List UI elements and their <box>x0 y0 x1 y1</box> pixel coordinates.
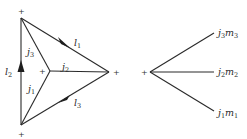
label-l3: l3 <box>74 97 81 110</box>
label-j2m2: j2m2 <box>216 66 238 79</box>
label-l2: l2 <box>5 66 12 79</box>
edge-j2 <box>50 71 109 72</box>
coupling-diagrams: + + + + l1 l2 l3 j3 j2 j1 + j3m3 <box>0 0 247 139</box>
arrow-l1-icon <box>58 37 70 48</box>
sign-right: + <box>113 68 120 77</box>
leg-j1m1 <box>150 72 214 111</box>
label-j3: j3 <box>25 46 34 59</box>
label-j3m3: j3m3 <box>216 27 238 40</box>
label-l1: l1 <box>74 37 81 50</box>
leg-j3m3 <box>150 33 214 72</box>
sign-center: + <box>39 67 46 76</box>
arrow-l2-icon <box>18 60 25 72</box>
sign-fan-vertex: + <box>141 68 148 77</box>
fan-diagram: + j3m3 j2m2 j1m1 <box>141 27 238 120</box>
triangle-diagram: + + + + l1 l2 l3 j3 j2 j1 <box>5 7 120 139</box>
edge-j3 <box>21 18 50 71</box>
sign-bottom: + <box>18 130 25 139</box>
label-j2: j2 <box>60 61 69 74</box>
label-j1: j1 <box>26 83 35 96</box>
label-j1m1: j1m1 <box>216 107 238 120</box>
sign-top: + <box>18 7 25 16</box>
